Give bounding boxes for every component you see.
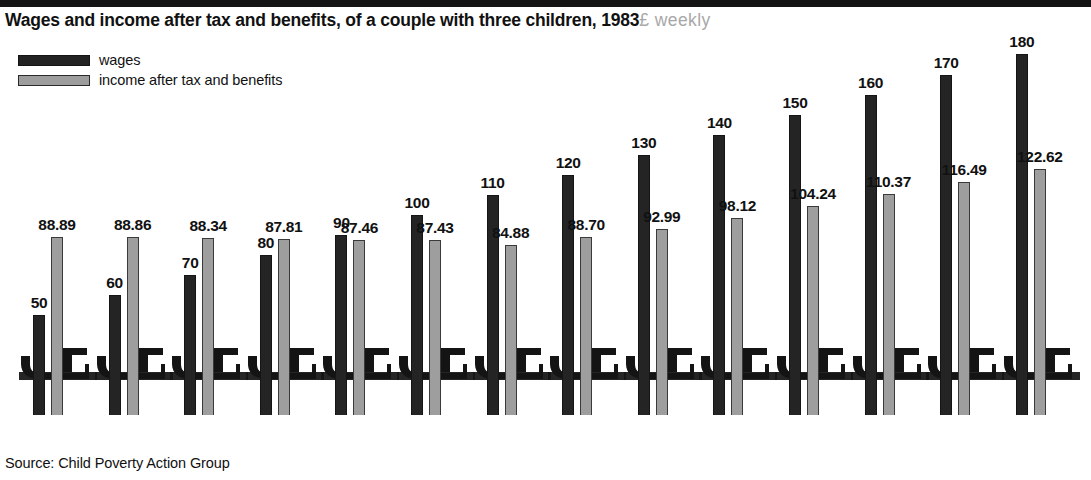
bar-group: 11084.88: [473, 0, 549, 415]
bar-value-label-wages: 100: [405, 194, 430, 212]
bar-income: [807, 206, 819, 415]
bar-wages: [260, 255, 272, 415]
bar-value-label-income: 116.49: [942, 161, 987, 179]
bar-income: [958, 182, 970, 415]
bar-group: 7088.34: [170, 0, 246, 415]
bar-value-label-income: 88.34: [190, 217, 227, 235]
bar-group: 9087.46: [321, 0, 397, 415]
bar-value-label-wages: 50: [31, 294, 48, 312]
bar-value-label-income: 88.86: [114, 216, 151, 234]
bar-value-label-income: 84.88: [492, 224, 529, 242]
bar-income: [202, 238, 214, 415]
bar-wages: [638, 155, 650, 415]
bar-value-label-wages: 80: [257, 234, 274, 252]
bar-wages: [713, 135, 725, 415]
bar-chart-plot-area: 5088.896088.867088.348087.819087.4610087…: [0, 0, 1091, 480]
bar-group: 13092.99: [624, 0, 700, 415]
bar-income: [429, 240, 441, 415]
bar-value-label-income: 87.46: [341, 219, 378, 237]
bar-value-label-wages: 160: [858, 74, 883, 92]
bar-wages: [335, 235, 347, 415]
bar-wages: [184, 275, 196, 415]
bar-wages: [789, 115, 801, 415]
bar-income: [1034, 169, 1046, 415]
bar-wages: [109, 295, 121, 415]
bar-value-label-wages: 130: [631, 134, 656, 152]
bar-value-label-wages: 180: [1009, 33, 1034, 51]
bar-group: 10087.43: [397, 0, 473, 415]
bar-value-label-income: 88.89: [38, 216, 75, 234]
bar-income: [656, 229, 668, 415]
bar-value-label-wages: 120: [556, 154, 581, 172]
bar-group: 6088.86: [95, 0, 171, 415]
bar-group: 180122.62: [1002, 0, 1078, 415]
bar-wages: [33, 315, 45, 415]
bar-group: 8087.81: [246, 0, 322, 415]
bar-income: [731, 218, 743, 415]
bar-value-label-income: 122.62: [1017, 148, 1063, 166]
bar-group: 150104.24: [775, 0, 851, 415]
bar-value-label-wages: 60: [106, 274, 123, 292]
bar-income: [505, 245, 517, 415]
bar-wages: [562, 175, 574, 415]
bar-income: [127, 237, 139, 415]
chart-page: Wages and income after tax and benefits,…: [0, 0, 1091, 480]
bar-value-label-wages: 170: [934, 54, 959, 72]
bar-value-label-wages: 70: [182, 254, 199, 272]
bar-income: [278, 239, 290, 415]
bar-value-label-income: 104.24: [790, 185, 836, 203]
bar-wages: [1016, 54, 1028, 415]
bar-value-label-income: 87.81: [265, 218, 302, 236]
bar-group: 12088.70: [548, 0, 624, 415]
bar-value-label-income: 110.37: [866, 173, 911, 191]
bar-group: 5088.89: [19, 0, 95, 415]
bar-income: [883, 194, 895, 415]
bar-value-label-wages: 110: [481, 174, 505, 192]
bar-wages: [940, 75, 952, 416]
bar-value-label-income: 88.70: [568, 216, 605, 234]
bar-value-label-income: 87.43: [416, 219, 453, 237]
bar-wages: [411, 215, 423, 415]
chart-source-note: Source: Child Poverty Action Group: [5, 455, 230, 471]
bar-group: 170116.49: [926, 0, 1002, 415]
bar-income: [580, 237, 592, 415]
bar-wages: [865, 95, 877, 415]
bar-value-label-wages: 150: [783, 94, 808, 112]
bar-group: 14098.12: [699, 0, 775, 415]
bar-income: [353, 240, 365, 415]
bar-group: 160110.37: [851, 0, 927, 415]
bar-value-label-wages: 140: [707, 114, 732, 132]
bar-income: [51, 237, 63, 415]
bar-value-label-income: 98.12: [719, 197, 756, 215]
bar-value-label-income: 92.99: [643, 208, 680, 226]
